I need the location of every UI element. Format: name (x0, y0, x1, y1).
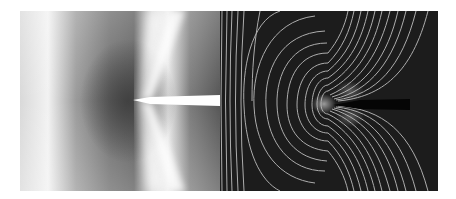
contour-field-plot (220, 11, 438, 191)
figure (20, 11, 438, 191)
intensity-field-panel (20, 11, 220, 191)
intensity-field-plot (20, 11, 220, 191)
contour-field-panel (220, 11, 438, 191)
